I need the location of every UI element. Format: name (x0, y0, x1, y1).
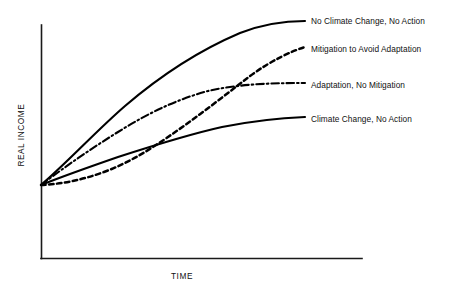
series-line-mitigation-to-avoid-adaptation (41, 47, 305, 185)
series-label-mitigation-to-avoid-adaptation: Mitigation to Avoid Adaptation (311, 45, 421, 53)
series-line-climate-change-no-action (41, 117, 305, 185)
series-label-climate-change-no-action: Climate Change, No Action (311, 115, 412, 123)
y-axis-label: REAL INCOME (17, 103, 25, 167)
chart-container: REAL INCOME TIME No Climate Change, No A… (0, 0, 449, 291)
series-label-no-climate-change-no-action: No Climate Change, No Action (311, 17, 425, 25)
x-axis-label: TIME (171, 272, 193, 280)
series-label-adaptation-no-mitigation: Adaptation, No Mitigation (311, 81, 405, 89)
